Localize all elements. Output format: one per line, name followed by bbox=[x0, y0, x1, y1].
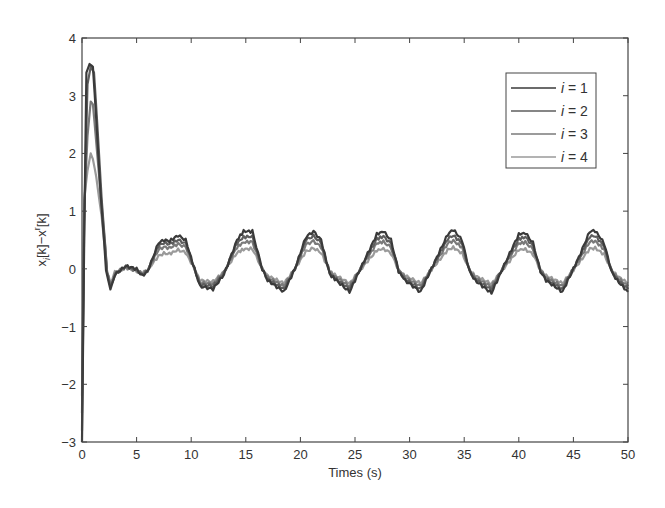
legend-label: i = 3 bbox=[561, 126, 588, 142]
x-tick-label: 50 bbox=[621, 447, 635, 462]
y-tick-label: −3 bbox=[61, 435, 76, 450]
y-tick-label: 0 bbox=[69, 262, 76, 277]
legend-label: i = 1 bbox=[561, 80, 588, 96]
x-tick-label: 30 bbox=[402, 447, 416, 462]
y-tick-label: 4 bbox=[69, 31, 76, 46]
x-tick-label: 25 bbox=[348, 447, 362, 462]
x-tick-label: 35 bbox=[457, 447, 471, 462]
x-tick-label: 45 bbox=[566, 447, 580, 462]
legend-label: i = 4 bbox=[561, 149, 588, 165]
x-axis-label: Times (s) bbox=[328, 465, 382, 480]
series-line-i-4 bbox=[82, 153, 628, 395]
x-tick-label: 15 bbox=[239, 447, 253, 462]
y-tick-label: 1 bbox=[69, 204, 76, 219]
ylabel-mid: [k]−x bbox=[34, 230, 49, 258]
chart: 05101520253035404550−3−2−101234 xi[k]−xr… bbox=[0, 0, 665, 508]
legend: i = 1i = 2i = 3i = 4 bbox=[506, 73, 596, 168]
y-tick-label: 3 bbox=[69, 89, 76, 104]
y-axis-label: xi[k]−xr[k] bbox=[32, 213, 52, 266]
x-tick-label: 10 bbox=[184, 447, 198, 462]
x-tick-label: 20 bbox=[293, 447, 307, 462]
y-tick-label: −2 bbox=[61, 377, 76, 392]
legend-label: i = 2 bbox=[561, 103, 588, 119]
ylabel-end: [k] bbox=[34, 213, 49, 227]
y-tick-label: −1 bbox=[61, 320, 76, 335]
x-tick-label: 0 bbox=[78, 447, 85, 462]
y-tick-label: 2 bbox=[69, 146, 76, 161]
x-tick-label: 40 bbox=[512, 447, 526, 462]
x-tick-label: 5 bbox=[133, 447, 140, 462]
